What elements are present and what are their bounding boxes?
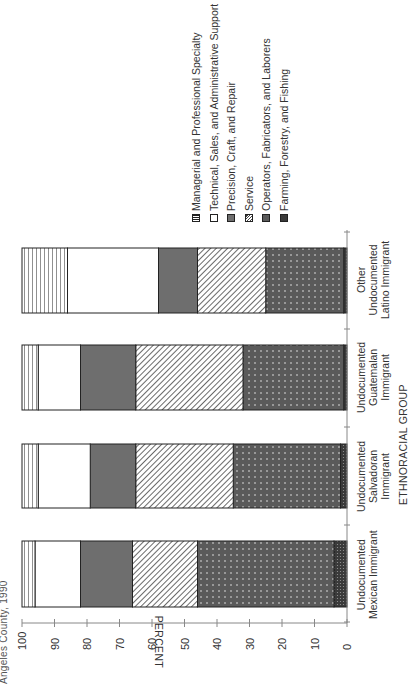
percent-axis-title: PERCENT [153, 616, 165, 668]
legend-item: Farming, Forestry, and Fishing [278, 69, 290, 222]
legend-swatch-icon [262, 214, 270, 222]
category-label: UndocumentedMexican Immigrant [355, 530, 379, 619]
bar-segment [136, 444, 234, 508]
tick-label: 40 [211, 638, 223, 650]
legend-label: Farming, Forestry, and Fishing [278, 69, 290, 211]
legend-label: Service [243, 176, 255, 211]
bar-segment [22, 345, 38, 410]
bar-segment [159, 248, 198, 313]
bars-group [22, 248, 347, 607]
legend-label: Technical, Sales, and Administrative Sup… [208, 4, 220, 211]
bar-segment [334, 541, 347, 607]
legend-label: Precision, Craft, and Repair [225, 82, 237, 211]
legend-item: Technical, Sales, and Administrative Sup… [208, 4, 220, 222]
tick-label: 30 [244, 638, 256, 650]
bar-segment [38, 444, 90, 508]
bar-segment [38, 345, 80, 410]
tick-label: 20 [276, 638, 288, 650]
legend-swatch-icon [245, 214, 253, 222]
bar-segment [22, 248, 68, 313]
category-label: OtherUndocumentedLatino Immigrant [355, 241, 391, 319]
tick-label: 100 [16, 632, 28, 650]
bar-segment [198, 248, 266, 313]
legend-item: Precision, Craft, and Repair [225, 82, 237, 222]
chart-title-fragment: Angeles County, 1990 [0, 580, 9, 684]
bar-segment [81, 345, 136, 410]
legend-label: Operators, Fabricators, and Laborers [260, 38, 272, 211]
bar-segment [233, 444, 340, 508]
bar-segment [81, 541, 133, 607]
tick-label: 90 [49, 638, 61, 650]
legend-swatch-icon [227, 214, 235, 222]
bar-segment [133, 541, 198, 607]
category-label: UndocumentedGuatemalanImmigrant [355, 341, 391, 412]
legend-swatch-icon [280, 214, 288, 222]
bar-segment [35, 541, 81, 607]
bar-segment [136, 345, 243, 410]
tick-label: 0 [341, 644, 353, 650]
legend-item: Service [243, 176, 255, 222]
tick-label: 50 [179, 638, 191, 650]
legend-swatch-icon [192, 214, 200, 222]
bar-segment [68, 248, 159, 313]
group-axis-title: ETHNORACIAL GROUP [397, 384, 409, 505]
bar-segment [266, 248, 344, 313]
legend-item: Operators, Fabricators, and Laborers [260, 38, 272, 222]
bar-segment [243, 345, 344, 410]
bar-segment [341, 444, 348, 508]
bar-segment [90, 444, 136, 508]
bar-segment [22, 541, 35, 607]
tick-label: 10 [309, 638, 321, 650]
bar-segment [198, 541, 335, 607]
category-label: UndocumentedSalvadoranImmigrant [355, 440, 391, 511]
tick-label: 70 [114, 638, 126, 650]
legend-swatch-icon [210, 214, 218, 222]
tick-label: 80 [81, 638, 93, 650]
legend-item: Managerial and Professional Specialty [190, 32, 202, 222]
legend-label: Managerial and Professional Specialty [190, 32, 202, 211]
bar-segment [22, 444, 38, 508]
